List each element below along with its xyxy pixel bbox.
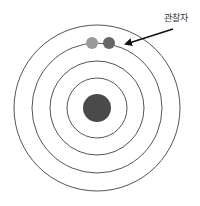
arrow-pointer: [126, 29, 173, 44]
observer-dot-2: [103, 37, 115, 49]
center-core: [83, 94, 111, 122]
observer-label: 관찰자: [164, 11, 188, 24]
concentric-ring-diagram: [0, 0, 200, 206]
observer-dot-1: [86, 37, 98, 49]
